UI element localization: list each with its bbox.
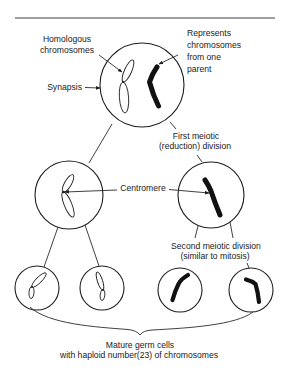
grouping-brace xyxy=(30,307,253,335)
connector-line xyxy=(247,263,249,268)
chromosome-solid xyxy=(246,280,259,303)
germ-cell-3 xyxy=(158,268,202,312)
germ-cell-4 xyxy=(229,268,273,312)
label-second-meiotic-division: Second meiotic division (similar to mito… xyxy=(171,241,261,261)
arrow-icon xyxy=(65,190,117,192)
first-division-left-cell xyxy=(35,161,103,229)
homologous-chromosome-outline xyxy=(118,59,136,114)
svg-text:First meiotic: First meiotic xyxy=(173,131,220,141)
connector-line xyxy=(197,155,202,162)
germ-cell-1 xyxy=(15,266,59,310)
label-centromere: Centromere xyxy=(65,183,209,193)
svg-text:chromosomes: chromosomes xyxy=(187,40,241,50)
dyad-chromosome-solid xyxy=(205,180,220,215)
svg-text:chromosomes: chromosomes xyxy=(40,45,94,55)
svg-text:Second meiotic division: Second meiotic division xyxy=(171,241,261,251)
svg-text:Represents: Represents xyxy=(187,28,231,38)
label-mature-germ-cells: Mature germ cells with haploid number(23… xyxy=(59,340,218,360)
connector-line xyxy=(230,222,233,238)
germ-cell-2 xyxy=(80,266,124,310)
label-synapsis: Synapsis xyxy=(47,82,100,92)
chromosome-solid xyxy=(173,275,189,300)
label-represents-parent: Represents chromosomes from one parent xyxy=(159,28,241,74)
svg-text:with haploid number(23) of chr: with haploid number(23) of chromosomes xyxy=(59,350,218,360)
svg-text:from one: from one xyxy=(187,52,221,62)
svg-text:Homologous: Homologous xyxy=(43,34,91,44)
connector-line xyxy=(195,226,198,238)
chromosome-outline xyxy=(29,271,48,299)
svg-text:(reduction) division: (reduction) division xyxy=(159,141,231,151)
svg-text:(similar to mitosis): (similar to mitosis) xyxy=(180,251,249,261)
connector-line xyxy=(89,124,112,163)
svg-text:Mature germ cells: Mature germ cells xyxy=(106,340,174,350)
chromosome-outline xyxy=(95,271,106,301)
svg-text:Synapsis: Synapsis xyxy=(47,82,82,92)
first-division-right-cell xyxy=(178,162,244,228)
label-homologous-chromosomes: Homologous chromosomes xyxy=(40,34,122,72)
label-first-meiotic-division: First meiotic (reduction) division xyxy=(159,131,231,151)
arrow-icon xyxy=(169,190,209,194)
svg-text:Centromere: Centromere xyxy=(120,183,166,193)
dyad-chromosome-outline xyxy=(59,173,76,218)
svg-text:parent: parent xyxy=(187,64,212,74)
arrow-icon xyxy=(85,88,100,89)
parent-cell xyxy=(100,43,184,127)
meiosis-diagram: Homologous chromosomes Represents chromo… xyxy=(0,0,287,370)
connector-line xyxy=(85,225,99,266)
parent-chromosome-solid xyxy=(150,67,159,106)
connector-line xyxy=(170,122,176,129)
connector-line xyxy=(44,227,58,267)
